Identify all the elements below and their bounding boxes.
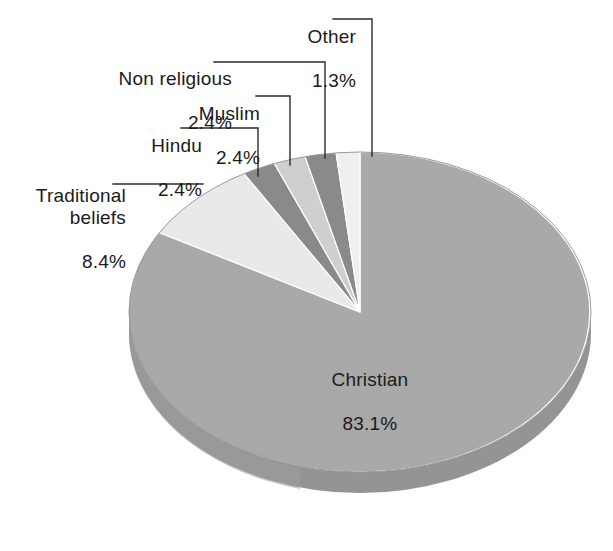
callout-traditional-percent: 8.4% — [0, 251, 126, 273]
callout-christian: Christian 83.1% — [300, 347, 440, 457]
callout-hindu-category: Hindu — [60, 135, 202, 157]
callout-christian-category: Christian — [300, 369, 440, 391]
callout-christian-percent: 83.1% — [300, 413, 440, 435]
callout-other-category: Other — [236, 26, 356, 48]
pie-chart-figure: Other 1.3% Non religious 2.4% Muslim 2.4… — [0, 0, 613, 551]
callout-traditional-category: Traditional beliefs — [0, 185, 126, 229]
callout-traditional: Traditional beliefs 8.4% — [0, 163, 126, 295]
